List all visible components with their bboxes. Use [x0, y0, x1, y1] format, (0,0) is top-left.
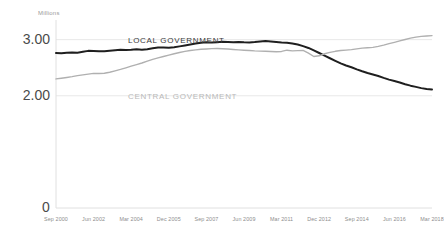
- x-axis-tick-label: Sep 2000: [44, 216, 68, 222]
- x-axis-tick-label: Mar 2011: [270, 216, 293, 222]
- series-label-central-government: CENTRAL GOVERNMENT: [128, 92, 237, 101]
- x-axis-tick-label: Jun 2009: [233, 216, 256, 222]
- x-axis-tick-label: Dec 2012: [307, 216, 331, 222]
- series-line-local-government: [56, 41, 432, 89]
- x-axis-tick-label: Sep 2007: [194, 216, 218, 222]
- y-axis-tick-label: 0: [42, 199, 50, 215]
- x-axis-tick-label: Jun 2016: [383, 216, 406, 222]
- x-axis-tick-label: Mar 2018: [420, 216, 444, 222]
- x-axis-tick-label: Dec 2005: [157, 216, 181, 222]
- y-axis-tick-label: 3.00: [0, 31, 50, 47]
- x-axis-tick-label: Mar 2004: [119, 216, 143, 222]
- series-label-local-government: LOCAL GOVERNMENT: [128, 36, 225, 45]
- gridlines: [56, 40, 432, 96]
- y-axis-tick-label: 2.00: [0, 87, 50, 103]
- axis-lines: [56, 20, 432, 208]
- x-axis-tick-label: Jun 2002: [82, 216, 105, 222]
- series-lines: [56, 36, 432, 90]
- x-axis-tick-label: Sep 2014: [345, 216, 369, 222]
